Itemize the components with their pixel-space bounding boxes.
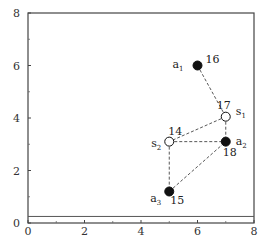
point-value-label: 17 — [217, 99, 231, 112]
x-tick-label: 8 — [251, 225, 258, 238]
x-tick-label: 4 — [138, 225, 145, 238]
x-tick-label: 2 — [81, 225, 88, 238]
chart-svg: 0246802468 a116s117a218s214a315 — [0, 0, 267, 247]
plot-frame — [28, 13, 254, 223]
x-tick-label: 6 — [194, 225, 201, 238]
point-name-label: a3 — [150, 192, 161, 207]
y-tick-label: 8 — [13, 7, 20, 20]
point-value-label: 16 — [206, 53, 220, 66]
y-tick-label: 0 — [13, 217, 20, 230]
point-a1 — [193, 61, 202, 70]
point-name-label: s1 — [236, 105, 246, 120]
y-tick-label: 2 — [13, 165, 20, 178]
edge-line — [169, 142, 226, 192]
point-name-label: a2 — [236, 135, 247, 150]
point-name-label: s2 — [151, 137, 161, 152]
axis-ticks: 0246802468 — [13, 7, 258, 238]
y-tick-label: 6 — [13, 60, 20, 73]
point-s1 — [221, 112, 230, 121]
points: a116s117a218s214a315 — [150, 53, 247, 207]
plot-border — [28, 13, 254, 223]
y-tick-label: 4 — [13, 112, 20, 125]
point-value-label: 15 — [170, 194, 184, 207]
x-tick-label: 0 — [25, 225, 32, 238]
point-value-label: 18 — [223, 146, 237, 159]
point-name-label: a1 — [172, 58, 183, 73]
point-s2 — [165, 137, 174, 146]
point-value-label: 14 — [168, 125, 182, 138]
